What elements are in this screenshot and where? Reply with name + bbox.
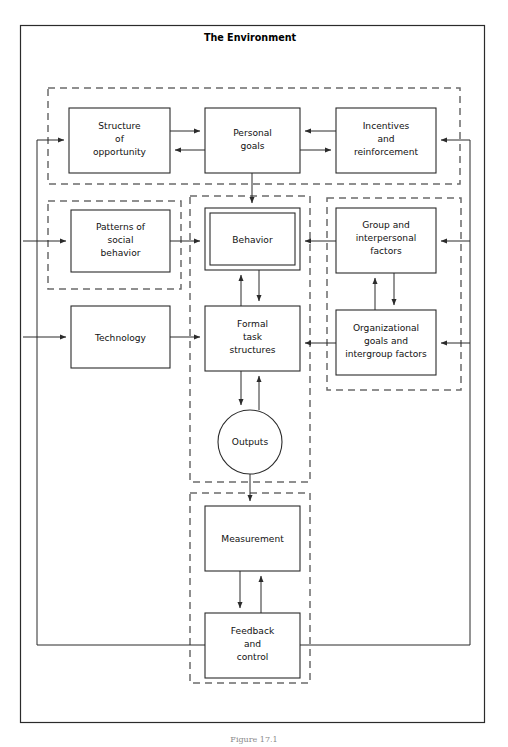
label-measurement: Measurement (221, 534, 284, 544)
label-structure-line3: opportunity (93, 147, 147, 157)
label-group-line3: factors (370, 246, 402, 256)
diagram-svg: The Environment (0, 0, 508, 747)
label-feedback-line2: and (244, 639, 261, 649)
label-group-line2: interpersonal (356, 233, 416, 243)
label-personal-goals-line1: Personal (233, 128, 272, 138)
figure-canvas: The Environment (0, 0, 508, 747)
figure-caption: Figure 17.1 (230, 735, 277, 744)
label-patterns-line2: social (108, 235, 134, 245)
label-formal-task-line2: task (243, 332, 263, 342)
label-group-line1: Group and (362, 220, 410, 230)
label-personal-goals-line2: goals (240, 141, 264, 151)
label-technology: Technology (94, 333, 147, 343)
label-patterns-line3: behavior (101, 248, 141, 258)
label-outputs: Outputs (232, 437, 269, 447)
label-incentives-line2: and (377, 134, 394, 144)
label-org-line2: goals and (364, 336, 408, 346)
label-feedback-line1: Feedback (231, 626, 275, 636)
label-incentives-line3: reinforcement (354, 147, 419, 157)
label-formal-task-line1: Formal (237, 319, 268, 329)
label-behavior: Behavior (232, 235, 273, 245)
label-formal-task-line3: structures (229, 345, 275, 355)
figure-title: The Environment (204, 32, 297, 43)
label-structure-line1: Structure (98, 121, 141, 131)
label-org-line3: intergroup factors (345, 349, 427, 359)
label-incentives-line1: Incentives (363, 121, 410, 131)
label-org-line1: Organizational (353, 323, 419, 333)
label-feedback-line3: control (237, 652, 269, 662)
label-patterns-line1: Patterns of (96, 222, 146, 232)
label-structure-line2: of (115, 134, 125, 144)
